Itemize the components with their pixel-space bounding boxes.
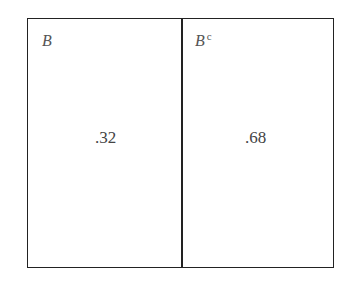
- region-bc-label: Bc: [195, 32, 212, 50]
- complement-superscript: c: [207, 30, 212, 42]
- region-b-label-text: B: [42, 32, 52, 49]
- partition-divider: [181, 18, 183, 268]
- region-bc-label-text: B: [195, 32, 205, 49]
- region-bc-value: .68: [245, 128, 266, 148]
- region-b-value: .32: [95, 128, 116, 148]
- region-b-label: B: [42, 32, 52, 50]
